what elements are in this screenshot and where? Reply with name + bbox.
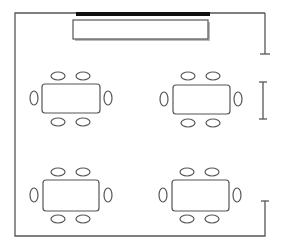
chair: [76, 72, 90, 80]
chair: [206, 72, 220, 80]
table: [42, 84, 100, 113]
whiteboard-bar: [76, 12, 210, 16]
chair: [30, 91, 38, 105]
table: [43, 180, 99, 211]
chair: [205, 168, 219, 176]
table-bottom-left: [30, 168, 112, 223]
door-middle-right: [259, 82, 267, 119]
chair: [205, 215, 219, 223]
floor-plan: Classroom layout floor plan: [0, 0, 281, 247]
chair: [104, 91, 112, 105]
chair: [76, 118, 90, 126]
chair: [51, 215, 65, 223]
chair: [159, 188, 167, 202]
chair: [76, 215, 90, 223]
chair: [233, 188, 241, 202]
chair: [30, 188, 38, 202]
chair: [181, 72, 195, 80]
chair: [180, 215, 194, 223]
chair: [76, 168, 90, 176]
table-top-right: [160, 72, 242, 127]
chair: [180, 168, 194, 176]
presentation-screen: [73, 20, 210, 41]
chair: [206, 119, 220, 127]
chair: [51, 168, 65, 176]
chair: [234, 92, 242, 106]
chair: [51, 118, 65, 126]
chair: [104, 188, 112, 202]
table-top-left: [30, 72, 112, 126]
chair: [160, 92, 168, 106]
table: [173, 85, 230, 114]
table-bottom-right: [159, 168, 241, 223]
chair: [181, 119, 195, 127]
table: [172, 180, 229, 211]
chair: [51, 72, 65, 80]
